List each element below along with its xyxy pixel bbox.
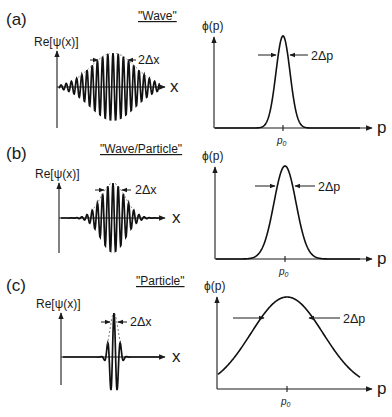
- width-label: 2Δp: [318, 180, 340, 194]
- y-axis-label: Re[ψ(x)]: [36, 297, 81, 311]
- momentum-gaussian-curve: [218, 297, 360, 377]
- x-axis-label: x: [172, 347, 181, 366]
- width-label: 2Δx: [130, 315, 152, 329]
- panel-title: "Particle": [136, 274, 185, 288]
- panel-tag: (a): [6, 10, 27, 29]
- x-axis-label: p: [377, 379, 386, 398]
- x-axis-label: p: [377, 249, 386, 268]
- p0-tick-label: p0: [276, 135, 287, 147]
- y-axis-label: ϕ(p): [204, 279, 225, 293]
- y-axis-label: Re[ψ(x)]: [34, 35, 79, 49]
- momentum-space-plot: ϕ(p) p p0 2Δp: [204, 279, 386, 408]
- figure-canvas: (a) "Wave" Re[ψ(x)] x 2Δx ϕ(p) p p0 2Δp: [0, 0, 392, 417]
- panel-title: "Wave/Particle": [100, 142, 182, 156]
- panel-a: (a) "Wave" Re[ψ(x)] x 2Δx ϕ(p) p p0 2Δp: [6, 9, 386, 147]
- x-axis-label: p: [377, 118, 386, 137]
- p0-tick-label: p0: [280, 396, 291, 408]
- width-label: 2Δp: [343, 312, 365, 326]
- momentum-gaussian-curve: [215, 36, 360, 128]
- y-axis-label: Re[ψ(x)]: [35, 167, 80, 181]
- panel-tag: (c): [6, 276, 26, 295]
- position-space-plot: Re[ψ(x)] x 2Δx: [36, 297, 181, 390]
- y-axis-label: ϕ(p): [202, 149, 223, 163]
- y-axis-label: ϕ(p): [202, 19, 223, 33]
- panel-title: "Wave": [138, 9, 177, 23]
- width-label: 2Δx: [135, 183, 157, 197]
- position-space-plot: Re[ψ(x)] x 2Δx: [34, 35, 179, 128]
- x-axis-label: x: [170, 77, 179, 96]
- momentum-space-plot: ϕ(p) p p0 2Δp: [202, 149, 386, 278]
- p0-tick-label: p0: [278, 266, 289, 278]
- panel-c: (c) "Particle" Re[ψ(x)] x 2Δx ϕ(p) p p0 …: [6, 274, 386, 408]
- momentum-space-plot: ϕ(p) p p0 2Δp: [202, 19, 386, 147]
- position-space-plot: Re[ψ(x)] x 2Δx: [35, 167, 181, 253]
- width-label: 2Δp: [311, 49, 333, 63]
- x-axis-label: x: [172, 208, 181, 227]
- panel-tag: (b): [6, 144, 27, 163]
- width-label: 2Δx: [138, 53, 160, 67]
- panel-b: (b) "Wave/Particle" Re[ψ(x)] x 2Δx ϕ(p) …: [6, 142, 386, 278]
